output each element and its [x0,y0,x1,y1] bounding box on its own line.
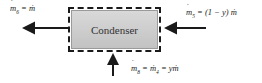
condenser-box: Condenser [71,10,158,49]
inlet-5-label: m5 = (1 − y) ṁ [186,7,237,19]
condenser-label: Condenser [91,24,138,36]
outlet-6-label: m6 = ṁ [10,3,35,15]
inlet-8-label: m8 = ṁ4 = yṁ [131,63,179,75]
